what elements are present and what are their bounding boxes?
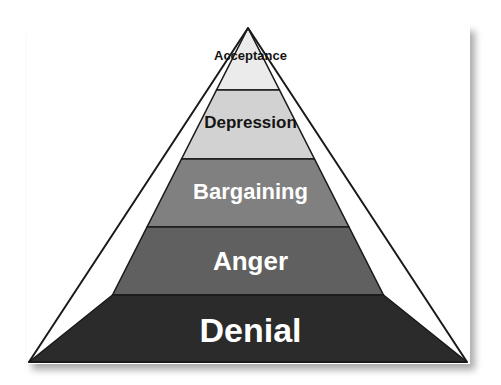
pyramid-label-depression: Depression <box>0 114 501 131</box>
pyramid-label-bargaining: Bargaining <box>0 181 501 203</box>
diagram-canvas: Acceptance Depression Bargaining Anger D… <box>0 0 501 385</box>
pyramid-label-acceptance: Acceptance <box>0 49 501 62</box>
pyramid-label-denial: Denial <box>0 313 501 347</box>
pyramid-label-anger: Anger <box>0 248 501 274</box>
